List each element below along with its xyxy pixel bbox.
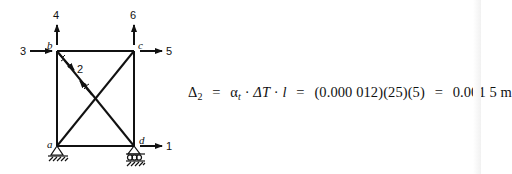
dof-label-1: 1	[166, 141, 172, 152]
eq-result: 0.001 5 m	[453, 84, 512, 100]
eq-alpha-subscript: t	[238, 91, 241, 102]
arrow-dof-2-b-icon	[59, 54, 74, 70]
arrow-dof-2-d-icon	[80, 81, 92, 95]
node-label-d: d	[139, 135, 145, 146]
eq-dot-1: ·	[245, 84, 250, 100]
roller-support-d-icon	[126, 146, 145, 166]
dof-label-6: 6	[130, 10, 136, 21]
node-label-b: b	[47, 40, 53, 51]
dof-label-3: 3	[20, 46, 26, 57]
dof-label-4: 4	[53, 10, 59, 21]
dof-label-2: 2	[77, 64, 83, 75]
thermal-displacement-equation: Δ2 = αt · ΔT · l = (0.000 012)(25)(5) = …	[188, 84, 512, 102]
page-edge-shadow	[473, 0, 481, 174]
dof-label-5: 5	[166, 46, 172, 57]
node-label-c: c	[138, 40, 143, 51]
eq-alpha: α	[230, 84, 238, 100]
eq-lhs-subscript: 2	[197, 91, 202, 102]
eq-equals-1: =	[212, 84, 220, 100]
eq-dot-2: ·	[274, 84, 279, 100]
eq-equals-3: =	[435, 84, 443, 100]
eq-equals-2: =	[296, 84, 304, 100]
eq-values: (0.000 012)(25)(5)	[314, 84, 425, 100]
node-label-a: a	[47, 139, 53, 150]
eq-length: l	[282, 84, 286, 100]
eq-delta-t: ΔT	[253, 84, 270, 100]
